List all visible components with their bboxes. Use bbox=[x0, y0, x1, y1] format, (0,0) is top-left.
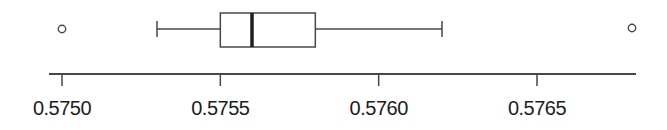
boxplot-chart: 0.5750 0.5755 0.5760 0.5765 bbox=[0, 0, 667, 130]
boxplot-glyph bbox=[58, 13, 635, 47]
outlier-point-high bbox=[628, 24, 635, 31]
x-axis-tick-label: 0.5750 bbox=[33, 97, 92, 119]
x-axis: 0.5750 0.5755 0.5760 0.5765 bbox=[33, 74, 636, 119]
x-axis-tick-label: 0.5760 bbox=[350, 97, 409, 119]
outlier-point-low bbox=[58, 25, 65, 32]
box-rect bbox=[220, 13, 315, 47]
boxplot-figure: 0.5750 0.5755 0.5760 0.5765 bbox=[0, 0, 667, 130]
x-axis-tick-label: 0.5755 bbox=[191, 97, 250, 119]
x-axis-tick-label: 0.5765 bbox=[508, 97, 567, 119]
